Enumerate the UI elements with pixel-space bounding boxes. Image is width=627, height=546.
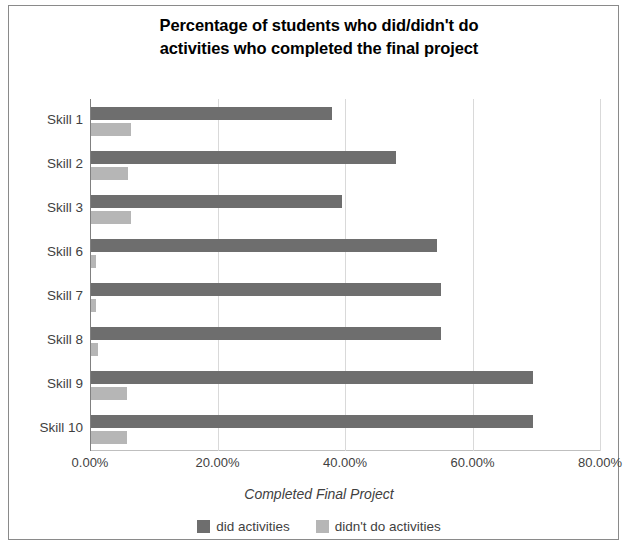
category-label: Skill 9 bbox=[47, 376, 83, 391]
legend-swatch-icon bbox=[316, 520, 329, 533]
bar-didnt-do-activities bbox=[90, 343, 98, 356]
category-label: Skill 1 bbox=[47, 112, 83, 127]
legend-label: didn't do activities bbox=[335, 519, 441, 534]
bar-did-activities bbox=[90, 107, 332, 120]
bar-didnt-do-activities bbox=[90, 387, 127, 400]
bar-did-activities bbox=[90, 371, 533, 384]
value-axis-tick-label: 80.00% bbox=[578, 455, 622, 470]
plot-area bbox=[90, 99, 600, 451]
bar-did-activities bbox=[90, 239, 437, 252]
bar-did-activities bbox=[90, 151, 396, 164]
bar-group bbox=[90, 187, 600, 231]
gridline bbox=[600, 99, 601, 451]
bar-did-activities bbox=[90, 415, 533, 428]
bar-did-activities bbox=[90, 327, 441, 340]
chart-title: Percentage of students who did/didn't do… bbox=[69, 14, 569, 60]
chart-title-line-2: activities who completed the final proje… bbox=[69, 37, 569, 60]
bar-group bbox=[90, 99, 600, 143]
value-axis-tick-label: 60.00% bbox=[450, 455, 494, 470]
chart-frame: Percentage of students who did/didn't do… bbox=[8, 5, 619, 540]
bar-didnt-do-activities bbox=[90, 123, 131, 136]
category-axis-line bbox=[90, 99, 91, 451]
legend-item-did-activities[interactable]: did activities bbox=[197, 519, 290, 534]
category-label: Skill 2 bbox=[47, 156, 83, 171]
chart-legend: did activitiesdidn't do activities bbox=[69, 519, 569, 534]
chart-title-line-1: Percentage of students who did/didn't do bbox=[69, 14, 569, 37]
bar-group bbox=[90, 319, 600, 363]
legend-swatch-icon bbox=[197, 520, 210, 533]
bar-group bbox=[90, 363, 600, 407]
bar-did-activities bbox=[90, 195, 342, 208]
category-axis-labels: Skill 1Skill 2Skill 3Skill 6Skill 7Skill… bbox=[9, 99, 83, 451]
bar-group bbox=[90, 275, 600, 319]
value-axis-tick-labels: 0.00%20.00%40.00%60.00%80.00% bbox=[90, 455, 600, 475]
legend-label: did activities bbox=[216, 519, 290, 534]
category-label: Skill 10 bbox=[39, 420, 83, 435]
category-label: Skill 8 bbox=[47, 332, 83, 347]
bar-group bbox=[90, 407, 600, 451]
category-label: Skill 3 bbox=[47, 200, 83, 215]
bar-didnt-do-activities bbox=[90, 431, 127, 444]
bar-group bbox=[90, 231, 600, 275]
bar-didnt-do-activities bbox=[90, 211, 131, 224]
category-label: Skill 6 bbox=[47, 244, 83, 259]
legend-item-didnt-do-activities[interactable]: didn't do activities bbox=[316, 519, 441, 534]
bar-group bbox=[90, 143, 600, 187]
value-axis-title: Completed Final Project bbox=[69, 486, 569, 502]
bar-did-activities bbox=[90, 283, 441, 296]
bar-didnt-do-activities bbox=[90, 167, 128, 180]
category-label: Skill 7 bbox=[47, 288, 83, 303]
value-axis-tick-label: 20.00% bbox=[195, 455, 239, 470]
value-axis-tick-label: 0.00% bbox=[72, 455, 109, 470]
value-axis-tick-label: 40.00% bbox=[323, 455, 367, 470]
